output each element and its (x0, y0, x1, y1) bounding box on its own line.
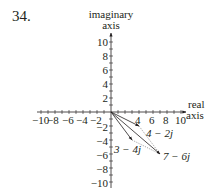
svg-text:axis: axis (102, 19, 120, 31)
label-7-6j: 7 − 6j (163, 150, 190, 162)
svg-text:10: 10 (97, 36, 109, 48)
y-tick-labels: 10 8 6 4 2 −2 −4 −6 −8 −10 (91, 36, 109, 189)
x-axis-label: real axis (186, 98, 204, 121)
x-tick-labels: −10 −8 −6 −4 −2 4 6 8 10 (32, 114, 187, 126)
svg-text:−2: −2 (96, 121, 108, 133)
y-axis-label: imaginary axis (89, 8, 134, 31)
vector-3-4j (111, 112, 132, 140)
vector-labels: 4 − 2j 3 − 4j 7 − 6j (113, 127, 190, 162)
svg-text:10: 10 (175, 114, 187, 126)
complex-plane-diagram: −10 −8 −6 −4 −2 4 6 8 10 10 8 6 4 2 −2 −… (0, 0, 213, 196)
svg-text:−8: −8 (47, 114, 59, 126)
svg-text:8: 8 (163, 114, 169, 126)
svg-text:2: 2 (103, 92, 109, 104)
svg-text:−6: −6 (96, 149, 108, 161)
label-4-2j: 4 − 2j (146, 127, 173, 139)
svg-text:−4: −4 (76, 114, 88, 126)
svg-text:−4: −4 (96, 135, 108, 147)
svg-text:6: 6 (149, 114, 155, 126)
label-3-4j: 3 − 4j (113, 143, 141, 155)
svg-text:6: 6 (103, 64, 109, 76)
svg-text:8: 8 (103, 50, 109, 62)
svg-text:−6: −6 (62, 114, 74, 126)
svg-text:−10: −10 (91, 177, 109, 189)
svg-text:−8: −8 (96, 163, 108, 175)
svg-text:4: 4 (103, 78, 109, 90)
svg-text:axis: axis (186, 109, 204, 121)
